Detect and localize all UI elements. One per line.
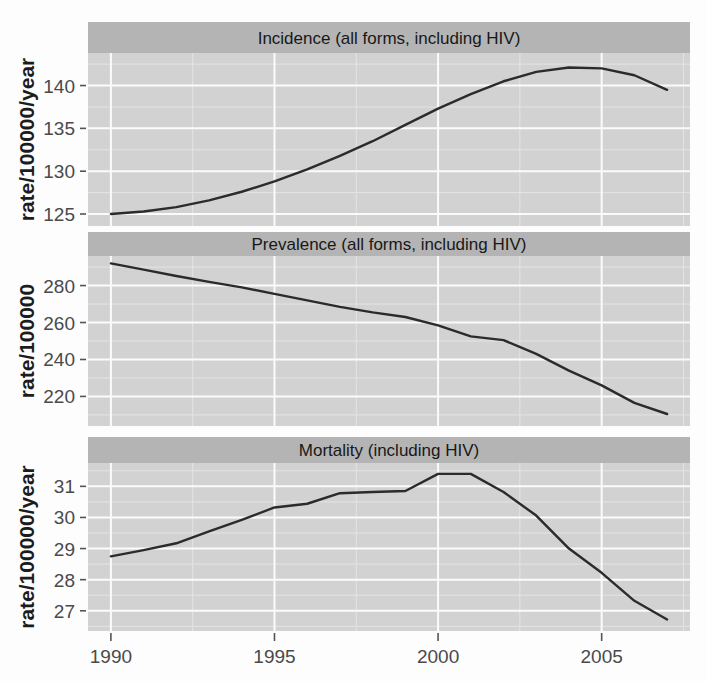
chart-canvas: Incidence (all forms, including HIV)1251… <box>0 0 707 681</box>
panel-background <box>88 53 690 226</box>
y-tick-label: 130 <box>43 161 75 182</box>
y-axis-title: rate/100000/year <box>15 58 38 221</box>
y-tick-label: 28 <box>54 570 75 591</box>
y-tick-label: 280 <box>43 276 75 297</box>
y-tick-label: 30 <box>54 507 75 528</box>
facet-panel-2: Prevalence (all forms, including HIV)220… <box>15 232 690 426</box>
y-tick-label: 135 <box>43 118 75 139</box>
facet-panel-3: Mortality (including HIV)2728293031rate/… <box>15 437 690 631</box>
y-tick-label: 31 <box>54 476 75 497</box>
y-axis-title: rate/100000 <box>15 284 38 398</box>
y-tick-label: 125 <box>43 204 75 225</box>
x-tick-label: 1990 <box>90 646 132 667</box>
x-axis: 1990199520002005 <box>90 633 623 667</box>
y-tick-label: 220 <box>43 386 75 407</box>
x-tick-label: 2000 <box>417 646 459 667</box>
y-tick-label: 29 <box>54 539 75 560</box>
y-axis-title: rate/100000/year <box>15 465 38 628</box>
facet-panel-1: Incidence (all forms, including HIV)1251… <box>15 22 690 226</box>
panel-title: Prevalence (all forms, including HIV) <box>252 235 527 254</box>
panel-title: Incidence (all forms, including HIV) <box>258 29 521 48</box>
y-tick-label: 140 <box>43 76 75 97</box>
panel-background <box>88 463 690 631</box>
y-tick-label: 260 <box>43 313 75 334</box>
panel-title: Mortality (including HIV) <box>299 441 479 460</box>
x-tick-label: 1995 <box>253 646 295 667</box>
multi-panel-line-chart: Incidence (all forms, including HIV)1251… <box>0 0 707 681</box>
x-tick-label: 2005 <box>581 646 623 667</box>
y-tick-label: 27 <box>54 601 75 622</box>
y-tick-label: 240 <box>43 349 75 370</box>
